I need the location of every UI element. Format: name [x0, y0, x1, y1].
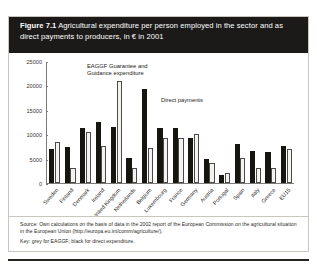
bar-group: [93, 62, 108, 183]
bar-group: [78, 62, 93, 183]
y-axis-tick-label: 0: [39, 181, 46, 187]
figure-footer: Source: Own calculations on the basis of…: [9, 216, 308, 251]
bar-group: [217, 62, 232, 183]
bar-eaggf-expenditure: [209, 163, 214, 183]
bar-group: [47, 62, 62, 183]
source-note: Source: Own calculations on the basis of…: [20, 221, 297, 235]
bar-group: [232, 62, 247, 183]
bar-direct-payments: [250, 151, 255, 183]
bar-group: [124, 62, 139, 183]
y-axis-tick-label: 5000: [30, 157, 46, 163]
bar-direct-payments: [49, 149, 54, 183]
bar-direct-payments: [219, 175, 224, 183]
bar-eaggf-expenditure: [287, 149, 292, 183]
x-axis-label: Sweden: [42, 187, 60, 206]
bar-eaggf-expenditure: [101, 146, 106, 183]
bar-eaggf-expenditure: [132, 168, 137, 183]
bar-eaggf-expenditure: [240, 158, 245, 183]
bar-direct-payments: [204, 159, 209, 183]
bar-eaggf-expenditure: [178, 138, 183, 183]
bar-group: [201, 62, 216, 183]
bar-group: [279, 62, 294, 183]
bar-direct-payments: [235, 144, 240, 183]
bar-direct-payments: [111, 127, 116, 183]
bar-direct-payments: [265, 152, 270, 183]
x-axis-label: Italy: [250, 187, 261, 198]
bar-eaggf-expenditure: [163, 138, 168, 183]
bar-direct-payments: [188, 138, 193, 183]
bar-eaggf-expenditure: [271, 168, 276, 183]
bar-direct-payments: [65, 147, 70, 183]
bar-direct-payments: [126, 158, 131, 183]
y-axis-tick-label: 10000: [26, 132, 46, 138]
bar-eaggf-expenditure: [148, 148, 153, 183]
bar-eaggf-expenditure: [117, 81, 122, 183]
y-axis-tick-label: 15000: [26, 108, 46, 114]
page-title: Figure 7.1 Agricultural expenditure per …: [20, 21, 298, 42]
bar-group: [155, 62, 170, 183]
bar-eaggf-expenditure: [256, 168, 261, 183]
bar-direct-payments: [157, 128, 162, 183]
bar-group: [263, 62, 278, 183]
bar-eaggf-expenditure: [86, 132, 91, 183]
bar-eaggf-expenditure: [225, 173, 230, 183]
page-bottom-rule: [8, 259, 309, 261]
bar-group: [62, 62, 77, 183]
bar-group: [171, 62, 186, 183]
bar-eaggf-expenditure: [55, 142, 60, 183]
bar-eaggf-expenditure: [194, 134, 199, 183]
figure-title-bar: Figure 7.1 Agricultural expenditure per …: [9, 17, 308, 53]
figure-number: Figure 7.1: [20, 21, 56, 30]
y-axis-tick-label: 25000: [26, 59, 46, 65]
bar-group: [186, 62, 201, 183]
bar-groups: [47, 62, 294, 183]
bar-direct-payments: [96, 122, 101, 183]
figure-title-text: Agricultural expenditure per person empl…: [20, 21, 283, 41]
bar-direct-payments: [80, 128, 85, 183]
key-note: Key: grey for EAGGF; black for direct ex…: [20, 238, 297, 245]
bar-eaggf-expenditure: [70, 168, 75, 183]
x-axis-label: EU15: [278, 187, 292, 201]
x-axis-label: Spain: [231, 187, 245, 201]
chart-axes: 0500010000150002000025000: [46, 62, 294, 184]
bar-direct-payments: [142, 89, 147, 183]
bar-group: [140, 62, 155, 183]
bar-group: [248, 62, 263, 183]
bar-direct-payments: [173, 128, 178, 183]
figure-card: Figure 7.1 Agricultural expenditure per …: [8, 16, 309, 252]
y-axis-tick-label: 20000: [26, 83, 46, 89]
bar-direct-payments: [281, 146, 286, 183]
x-axis-line: [46, 183, 294, 184]
bar-group: [109, 62, 124, 183]
chart-plot-area: EAGGF Guarantee and Guidance expenditure…: [9, 53, 308, 213]
